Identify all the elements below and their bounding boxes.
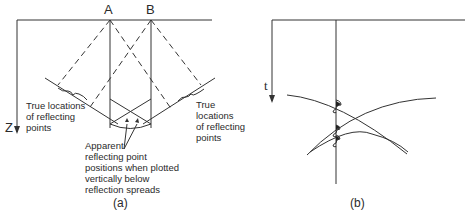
lower-curve — [310, 132, 408, 152]
left-true-locations-label: True locations of reflecting points — [26, 100, 85, 133]
t-axis-arrowhead — [269, 95, 275, 103]
right-true-locations-label: True locations of reflecting points — [196, 99, 245, 143]
right-label-line: points — [196, 132, 245, 143]
apparent-label-line: reflecting point — [85, 151, 179, 162]
curve-left-to-right — [287, 95, 407, 154]
right-label-line: of reflecting — [196, 121, 245, 132]
apparent-arc — [110, 124, 151, 129]
left-label-line: True locations — [26, 100, 85, 111]
curve-right-to-left — [307, 98, 436, 155]
apparent-positions-label: Apparent reflecting point positions when… — [85, 140, 179, 195]
left-true-location-brace — [58, 88, 87, 100]
caption-b: (b) — [350, 198, 365, 209]
label-point-a: A — [104, 4, 113, 15]
left-label-line: points — [26, 122, 85, 133]
right-label-line: locations — [196, 110, 245, 121]
apparent-label-line: Apparent — [85, 140, 179, 151]
label-z-axis: Z — [5, 122, 13, 133]
label-point-b: B — [146, 4, 155, 15]
apparent-label-line: positions when plotted — [85, 162, 179, 173]
z-axis-arrowhead — [14, 126, 20, 134]
apparent-label-line: vertically below — [85, 173, 179, 184]
label-t-axis: t — [264, 80, 268, 91]
left-label-line: of reflecting — [26, 111, 85, 122]
caption-a: (a) — [113, 198, 128, 209]
right-label-line: True — [196, 99, 245, 110]
apparent-label-line: reflection spreads — [85, 184, 179, 195]
